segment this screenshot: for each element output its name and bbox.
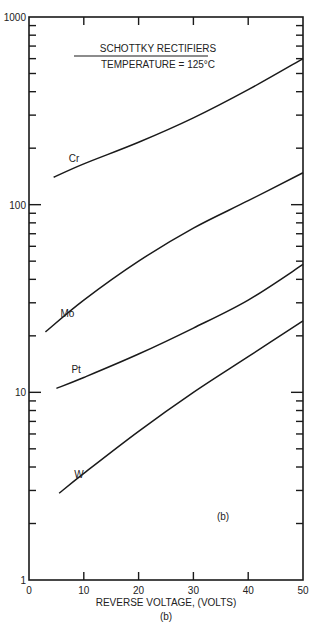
chart-title: SCHOTTKY RECTIFIERS [100, 43, 217, 54]
plot-frame: 010203040501101001000 [4, 12, 309, 596]
chart-subtitle: TEMPERATURE = 125°C [101, 59, 215, 70]
inner-panel-label: (b) [217, 511, 229, 522]
data-curves: CrMoPtW [45, 59, 303, 494]
chart: 010203040501101001000 CrMoPtW SCHOTTKY R… [0, 0, 315, 629]
plot-border [29, 17, 303, 580]
text-labels: SCHOTTKY RECTIFIERSTEMPERATURE = 125°C(b… [74, 43, 236, 622]
series-label-pt: Pt [71, 364, 81, 375]
x-tick-label: 20 [133, 585, 145, 596]
series-label-w: W [74, 469, 84, 480]
x-tick-label: 30 [188, 585, 200, 596]
y-tick-label: 1000 [4, 12, 27, 23]
curve-cr [54, 59, 303, 178]
series-label-mo: Mo [60, 308, 74, 319]
curve-w [59, 321, 303, 493]
y-tick-label: 100 [9, 200, 26, 211]
series-label-cr: Cr [69, 153, 80, 164]
curve-pt [56, 264, 303, 388]
figure-caption: (b) [160, 611, 172, 622]
curve-mo [45, 173, 303, 332]
y-tick-label: 1 [20, 575, 26, 586]
x-tick-label: 0 [26, 585, 32, 596]
x-tick-label: 40 [243, 585, 255, 596]
x-tick-label: 50 [297, 585, 309, 596]
y-tick-label: 10 [15, 387, 27, 398]
x-tick-label: 10 [78, 585, 90, 596]
x-axis-label: REVERSE VOLTAGE, (VOLTS) [96, 597, 237, 608]
